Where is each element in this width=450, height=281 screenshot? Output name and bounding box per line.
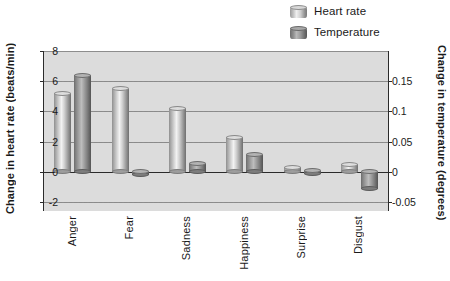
bar-bottom-ellipse	[112, 169, 129, 174]
legend-label-temperature: Temperature	[314, 26, 380, 38]
bar-bottom-ellipse	[226, 169, 243, 174]
y-axis-left-tick-label: 2	[34, 137, 58, 147]
y-axis-left-tick-mark	[40, 111, 44, 112]
y-axis-right-tick-mark	[388, 202, 392, 203]
plot-area	[44, 51, 388, 211]
cylinder-dark-icon	[290, 26, 307, 39]
zero-baseline	[44, 172, 388, 173]
y-axis-left-tick-mark	[40, 51, 44, 52]
y-axis-right-spine	[388, 51, 389, 211]
bar-bottom-ellipse	[246, 169, 263, 174]
y-axis-right-tick-label: 0.1	[392, 106, 426, 116]
y-axis-left-tick-mark	[40, 172, 44, 173]
bar-bottom-ellipse	[341, 169, 358, 174]
bar-top-ellipse	[341, 162, 358, 167]
gridline-right	[44, 81, 388, 82]
y-axis-right-tick-label: 0	[392, 167, 426, 177]
y-axis-right-tick-label: -0.05	[392, 197, 426, 207]
bar-top-ellipse	[74, 73, 91, 78]
gridline-left	[44, 51, 388, 52]
gridline-right	[44, 202, 388, 203]
x-axis-label-sadness: Sadness	[180, 216, 192, 260]
x-axis-label-anger: Anger	[66, 216, 78, 246]
bar-shaft	[112, 89, 129, 172]
bar-bottom-ellipse	[74, 169, 91, 174]
bar-bottom-ellipse	[189, 169, 206, 174]
gridline-right	[44, 111, 388, 112]
y-axis-right-tick-mark	[388, 111, 392, 112]
bar-top-ellipse	[284, 165, 301, 170]
legend-label-heart-rate: Heart rate	[314, 5, 366, 17]
y-axis-left-tick-label: 6	[34, 76, 58, 86]
bar-top-ellipse	[169, 106, 186, 111]
chart-figure: Heart rate Temperature Change in heart r…	[0, 0, 450, 281]
y-axis-left-tick-mark	[40, 202, 44, 203]
bar-top-ellipse	[226, 135, 243, 140]
y-axis-left-tick-mark	[40, 81, 44, 82]
bar-happiness-temperature	[246, 155, 263, 172]
bar-shaft	[226, 137, 243, 172]
bar-shaft	[74, 75, 91, 172]
bar-fear-temperature	[132, 172, 149, 175]
legend-item-heart-rate: Heart rate	[290, 2, 380, 20]
bar-surprise-temperature	[304, 171, 321, 174]
bar-top-ellipse	[54, 91, 71, 96]
y-axis-left-title: Change in heart rate (beats/min)	[4, 44, 16, 214]
bar-top-ellipse	[304, 168, 321, 173]
x-axis-label-surprise: Surprise	[295, 216, 307, 259]
y-axis-right-tick-mark	[388, 81, 392, 82]
cylinder-light-icon	[290, 5, 307, 18]
gridline-right	[44, 142, 388, 143]
x-axis-label-happiness: Happiness	[238, 216, 250, 270]
legend-item-temperature: Temperature	[290, 23, 380, 41]
bar-shaft	[169, 108, 186, 171]
bar-disgust-temperature	[361, 172, 378, 189]
y-axis-right-tick-mark	[388, 142, 392, 143]
chart-legend: Heart rate Temperature	[290, 2, 380, 44]
bar-sadness-heart-rate	[169, 108, 186, 171]
bar-bottom-ellipse	[169, 169, 186, 174]
y-axis-left-tick-mark	[40, 142, 44, 143]
bar-anger-temperature	[74, 75, 91, 172]
y-axis-right-tick-label: 0.05	[392, 137, 426, 147]
y-axis-left-tick-label: -2	[34, 197, 58, 207]
bar-sadness-temperature	[189, 164, 206, 172]
bar-disgust-heart-rate	[341, 164, 358, 172]
bar-happiness-heart-rate	[226, 137, 243, 172]
y-axis-right-title: Change in temperature (degrees)	[436, 44, 448, 222]
y-axis-right-tick-label: 0.15	[392, 76, 426, 86]
bar-fear-heart-rate	[112, 89, 129, 172]
y-axis-left-tick-label: 4	[34, 106, 58, 116]
bar-bottom-ellipse	[284, 169, 301, 174]
bar-surprise-heart-rate	[284, 167, 301, 172]
bar-bottom-ellipse	[361, 186, 378, 191]
y-axis-left-tick-label: 8	[34, 46, 58, 56]
x-axis-label-fear: Fear	[123, 216, 135, 239]
y-axis-right-tick-mark	[388, 172, 392, 173]
y-axis-left-tick-label: 0	[34, 167, 58, 177]
x-axis-label-disgust: Disgust	[352, 216, 364, 254]
